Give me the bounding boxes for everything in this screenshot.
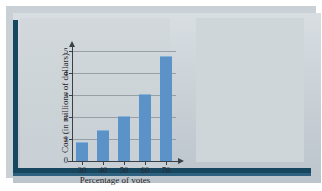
bar-chart: Cost (in millions of dollars) [20,18,170,168]
x-tick-label-60: 60 [134,165,156,175]
x-axis-arrow-icon [178,158,184,164]
y-tick-5 [69,51,73,52]
y-tick-2 [69,117,73,118]
y-tick-label-5: 5 [52,47,68,55]
x-tick-label-70: 70 [155,165,177,175]
bar-30 [76,142,88,161]
y-axis-title-host: Cost (in millions of dollars) [44,36,60,164]
figure-frame-left-accent [13,20,18,173]
y-tick-label-4: 4 [52,69,68,77]
bar-60 [139,94,151,161]
bar-50 [118,116,130,161]
y-axis-line [72,46,73,161]
y-axis-arrow-icon [69,41,75,47]
plot-area [72,51,176,161]
photo-mat: VOTE [196,18,304,162]
x-axis-title: Percentage of votes [50,175,180,185]
y-tick-4 [69,73,73,74]
bar-40 [97,130,109,161]
x-tick-label-50: 50 [113,165,135,175]
y-tick-3 [69,95,73,96]
x-tick-label-40: 40 [92,165,114,175]
y-axis-title: Cost (in millions of dollars) [60,44,70,162]
figure-panel: Cost (in millions of dollars) [0,0,322,191]
y-tick-label-2: 2 [52,113,68,121]
bar-70 [160,56,172,162]
y-tick-1 [69,139,73,140]
y-tick-label-3: 3 [52,91,68,99]
x-tick-label-30: 30 [71,165,93,175]
y-tick-label-1: 1 [52,135,68,143]
y-tick-label-0: 0 [52,156,68,164]
